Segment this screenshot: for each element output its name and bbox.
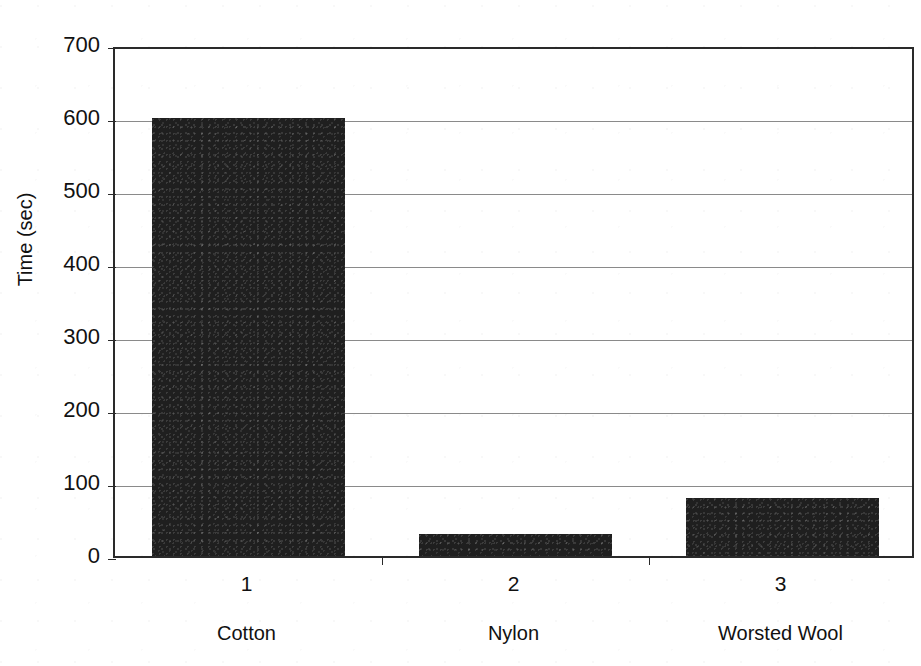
x-axis-category-label: Worsted Wool — [647, 622, 914, 645]
x-axis-tickmark — [382, 556, 383, 565]
y-axis-tick-label: 600 — [38, 107, 100, 129]
y-axis-tickmark — [108, 194, 116, 195]
y-axis-tick-label: 300 — [38, 326, 100, 348]
y-axis-tick-label: 200 — [38, 399, 100, 421]
x-axis-category-label: Cotton — [113, 622, 380, 645]
plot-area — [113, 47, 914, 558]
y-axis-tick-label: 100 — [38, 472, 100, 494]
bar — [152, 118, 346, 556]
y-axis-title: Time (sec) — [14, 165, 37, 315]
bar — [419, 534, 613, 556]
x-axis-category-label: Nylon — [380, 622, 647, 645]
x-axis-tick-label: 3 — [647, 572, 914, 596]
x-axis-tick-label: 1 — [113, 572, 380, 596]
y-axis-tick-label: 0 — [38, 545, 100, 567]
x-axis-tick-label: 2 — [380, 572, 647, 596]
y-axis-tickmark — [108, 486, 116, 487]
y-axis-tickmark — [108, 267, 116, 268]
y-axis-tick-labels: 0100200300400500600700 — [38, 0, 100, 666]
y-axis-tick-label: 700 — [38, 34, 100, 56]
bar-chart: Time (sec) 0100200300400500600700 123 Co… — [0, 0, 921, 666]
bar — [686, 498, 880, 556]
y-axis-tickmark — [108, 340, 116, 341]
y-axis-tickmark — [108, 48, 116, 49]
y-axis-tickmark — [108, 413, 116, 414]
x-axis-tickmark — [649, 556, 650, 565]
y-axis-tick-label: 500 — [38, 180, 100, 202]
y-axis-tickmark — [108, 559, 116, 560]
y-axis-tick-label: 400 — [38, 253, 100, 275]
y-axis-tickmark — [108, 121, 116, 122]
